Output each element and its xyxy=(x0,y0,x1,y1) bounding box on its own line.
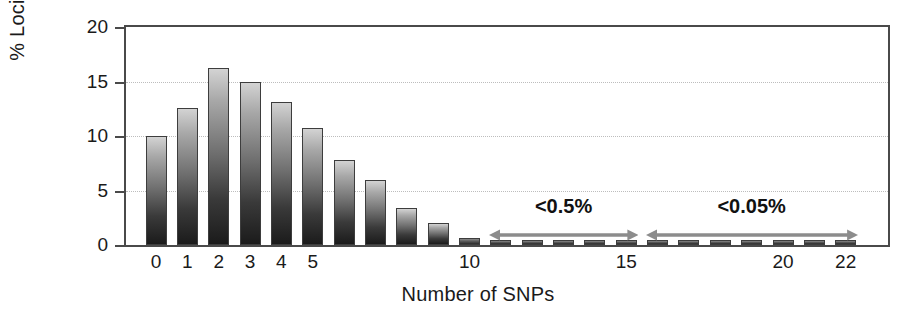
x-axis-title: Number of SNPs xyxy=(0,283,916,306)
x-axis-line xyxy=(124,245,890,247)
plot-frame-right xyxy=(888,25,890,247)
x-axis-tick-label: 5 xyxy=(293,252,333,271)
annotation-arrow-low xyxy=(489,228,638,242)
x-axis-tick-label: 15 xyxy=(606,252,646,271)
y-axis-tick-labels: 05101520 xyxy=(0,0,108,324)
bar xyxy=(365,180,386,245)
y-axis-tick-label: 5 xyxy=(72,181,108,200)
x-axis-tick-label: 10 xyxy=(450,252,490,271)
bar xyxy=(208,68,229,245)
y-axis-tick xyxy=(115,82,124,84)
y-axis-tick-label: 15 xyxy=(72,72,108,91)
annotation-arrow-verylow xyxy=(646,228,858,242)
bar xyxy=(146,136,167,245)
bar xyxy=(302,128,323,245)
x-axis-title-text: Number of SNPs xyxy=(402,283,555,305)
y-axis-tick-label: 10 xyxy=(72,126,108,145)
y-axis-tick xyxy=(115,191,124,193)
y-axis-tick xyxy=(115,27,124,29)
y-axis-tick-label: 20 xyxy=(72,17,108,36)
bar xyxy=(271,102,292,245)
y-axis-tick-label: 0 xyxy=(72,235,108,254)
bar xyxy=(334,160,355,245)
x-axis-tick-label: 22 xyxy=(826,252,866,271)
chart-figure: % Loci 05101520 <0.5% <0.05% 01234510152… xyxy=(0,0,916,324)
y-axis-tick xyxy=(115,136,124,138)
annotation-label-verylow: <0.05% xyxy=(682,195,822,218)
bar xyxy=(177,108,198,245)
plot-frame-top xyxy=(124,25,890,27)
bar xyxy=(396,208,417,245)
x-axis-tick-label: 20 xyxy=(763,252,803,271)
y-axis-tick xyxy=(115,245,124,247)
plot-area: <0.5% <0.05% xyxy=(124,25,890,247)
bar xyxy=(459,238,480,245)
bar xyxy=(240,82,261,246)
bar xyxy=(428,223,449,245)
annotation-label-low: <0.5% xyxy=(494,195,634,218)
